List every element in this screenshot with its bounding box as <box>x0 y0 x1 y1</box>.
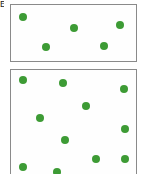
data-point-marker <box>116 21 124 29</box>
data-point-marker <box>61 136 69 144</box>
data-point-marker <box>70 24 78 32</box>
data-point-marker <box>19 163 27 171</box>
data-point-marker <box>121 125 129 133</box>
figure-root: E <box>0 0 144 174</box>
data-point-marker <box>120 85 128 93</box>
data-point-marker <box>82 102 90 110</box>
top-panel <box>10 4 137 62</box>
data-point-marker <box>121 155 129 163</box>
data-point-marker <box>59 79 67 87</box>
data-point-marker <box>19 13 27 21</box>
data-point-marker <box>36 114 44 122</box>
data-point-marker <box>42 43 50 51</box>
bottom-panel <box>10 69 137 174</box>
data-point-marker <box>92 155 100 163</box>
panel-corner-label: E <box>0 0 4 9</box>
data-point-marker <box>100 42 108 50</box>
data-point-marker <box>19 76 27 84</box>
data-point-marker <box>53 168 61 174</box>
